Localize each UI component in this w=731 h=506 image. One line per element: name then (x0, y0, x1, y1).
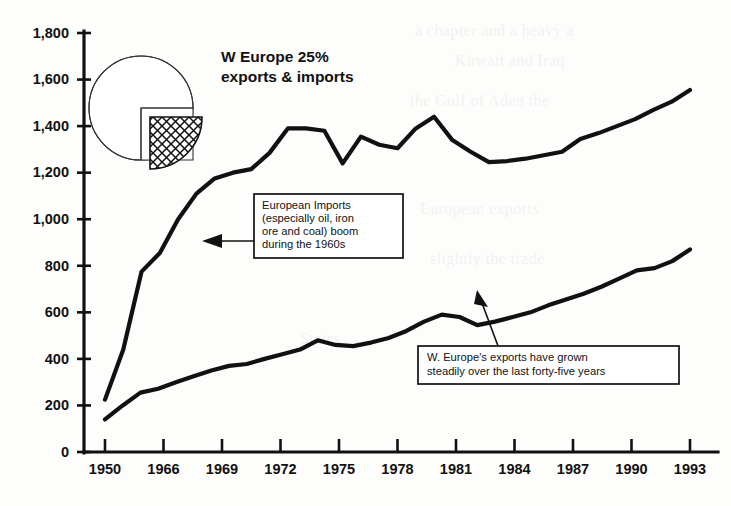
imports-callout-line-1: European Imports (262, 199, 351, 211)
chart-container: a chapter and a heavy a Kuwait and Iraq … (0, 0, 731, 506)
pie-slice-w-europe (150, 117, 202, 169)
x-tick-label: 1950 (89, 461, 121, 477)
x-tick-label: 1984 (498, 461, 530, 477)
series-line-exports (105, 249, 690, 419)
y-tick-label: 1,800 (33, 25, 69, 41)
pie-title-line-1: W Europe 25% (221, 48, 329, 65)
x-tick-label: 1981 (440, 461, 472, 477)
imports-callout-line-3: ore and coal) boom (262, 225, 358, 237)
imports-arrow-icon (202, 234, 222, 248)
y-tick-label: 1,000 (33, 211, 69, 227)
y-tick-label: 800 (45, 258, 69, 274)
y-tick-label: 400 (45, 351, 69, 367)
pie-title-line-2: exports & imports (221, 68, 354, 85)
x-tick-label: 1972 (264, 461, 296, 477)
y-tick-label: 0 (61, 444, 69, 460)
imports-callout-line-4: during the 1960s (262, 238, 346, 250)
pie-chart (89, 56, 202, 169)
y-tick-label: 600 (45, 304, 69, 320)
x-tick-label: 1975 (323, 461, 355, 477)
x-tick-label: 1978 (381, 461, 413, 477)
line-chart: 02004006008001,0001,2001,4001,6001,800 1… (0, 0, 731, 506)
x-axis-ticks (105, 439, 690, 452)
imports-annotation: European Imports (especially oil, iron o… (202, 194, 403, 258)
x-tick-label: 1987 (557, 461, 589, 477)
x-tick-label: 1990 (615, 461, 647, 477)
imports-callout-line-2: (especially oil, iron (262, 212, 354, 224)
y-axis-labels: 02004006008001,0001,2001,4001,6001,800 (33, 25, 69, 460)
exports-arrow-icon (474, 290, 488, 307)
y-tick-label: 200 (45, 397, 69, 413)
x-tick-label: 1966 (147, 461, 179, 477)
x-tick-label: 1969 (206, 461, 238, 477)
x-axis-labels: 1950196619691972197519781981198419871990… (89, 461, 706, 477)
y-tick-label: 1,400 (33, 118, 69, 134)
exports-callout-line-1: W. Europe's exports have grown (427, 351, 588, 363)
y-tick-label: 1,600 (33, 71, 69, 87)
y-tick-label: 1,200 (33, 164, 69, 180)
exports-callout-line-2: steadily over the last forty-five years (427, 365, 606, 377)
x-tick-label: 1993 (674, 461, 706, 477)
